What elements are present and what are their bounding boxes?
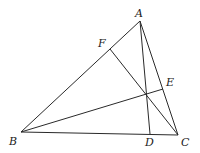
point-label-d: D <box>144 136 154 149</box>
triangle-altitudes-diagram: ABCDEF <box>0 0 200 153</box>
point-label-e: E <box>165 76 174 89</box>
point-label-c: C <box>181 136 190 149</box>
point-label-f: F <box>97 37 106 50</box>
segment-be <box>21 89 163 132</box>
segment-ad <box>140 21 150 134</box>
point-label-b: B <box>8 135 17 148</box>
point-label-a: A <box>134 7 143 20</box>
segment-bc <box>21 132 178 135</box>
segment-ab <box>21 21 140 132</box>
